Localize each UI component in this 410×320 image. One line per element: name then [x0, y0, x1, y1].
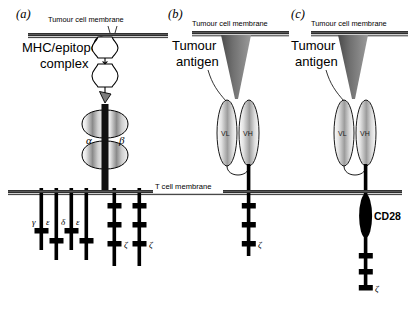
t-cell-membrane-label: T cell membrane: [155, 182, 211, 191]
itam-box-zeta-2-1: [133, 203, 147, 209]
mhc-label-line2: complex: [40, 56, 89, 71]
itam-box-epsilon-1-1: [50, 238, 64, 244]
chain-stem-delta: [70, 188, 74, 250]
cd3-epsilon-2-label: ε: [76, 217, 80, 227]
tcr-beta-label: β: [118, 134, 125, 146]
cd3-gamma-label: γ: [32, 217, 36, 227]
panel-b-label: (b): [168, 7, 183, 21]
itam-box-epsilon-2-1: [80, 238, 94, 244]
itam-box-zeta-1-2: [108, 222, 122, 228]
mhc-label-line1: MHC/epitope: [22, 40, 98, 55]
itam-box-b-3: [242, 241, 256, 247]
itam-box-b-1: [242, 203, 256, 209]
chain-stem-epsilon-1: [55, 188, 59, 260]
cd28-label: CD28: [374, 210, 401, 222]
cd28-domain: [359, 194, 372, 238]
itam-box-gamma-1: [35, 228, 49, 234]
tumour-antigen-label-b-line1: Tumour: [172, 38, 217, 53]
tumour-cell-membrane-a: [28, 33, 168, 36]
chain-stem-epsilon-2: [85, 188, 89, 260]
chain-stem-gamma: [40, 188, 44, 250]
itam-box-delta-1: [65, 228, 79, 234]
tumour-antigen-label-b-line2: antigen: [176, 54, 219, 69]
itam-box-zeta-2-2: [133, 222, 147, 228]
itam-box-zeta-2-3: [133, 241, 147, 247]
panel-c-membrane-label: Tumour cell membrane: [311, 19, 387, 28]
scfv-vh-label-c: VH: [360, 130, 370, 137]
mhc-domain-lower: [92, 64, 118, 87]
itam-box-zeta-1-1: [108, 203, 122, 209]
itam-box-c-2: [359, 269, 373, 275]
tcr-alpha-label: α: [86, 134, 92, 146]
scfv-vl-label-c: VL: [338, 130, 347, 137]
tcr-stalk: [102, 104, 109, 192]
itam-box-c-3: [359, 285, 373, 291]
panel-a-label: (a): [16, 7, 31, 21]
cd3-epsilon-1-label: ε: [46, 217, 50, 227]
tumour-antigen-label-c-line2: antigen: [295, 54, 338, 69]
panel-a-membrane-label: Tumour cell membrane: [48, 15, 124, 24]
itam-box-c-1: [359, 253, 373, 259]
panel-c-label: (c): [291, 7, 305, 21]
scfv-vl-label-b: VL: [221, 130, 230, 137]
mhc-domain-upper: [92, 37, 118, 58]
tumour-cell-membrane-b: [192, 31, 289, 34]
diagram-svg: (a) Tumour cell membrane MHC/epitope com…: [0, 0, 410, 320]
tumour-antigen-label-c-line1: Tumour: [291, 38, 336, 53]
panel-b-membrane-label: Tumour cell membrane: [192, 19, 268, 28]
figure-canvas: (a) Tumour cell membrane MHC/epitope com…: [0, 0, 410, 320]
itam-box-zeta-1-3: [108, 241, 122, 247]
itam-box-b-2: [242, 222, 256, 228]
scfv-vh-label-b: VH: [243, 130, 253, 137]
tumour-cell-membrane-c: [311, 31, 408, 34]
